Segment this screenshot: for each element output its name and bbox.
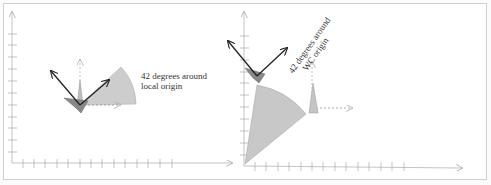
right-rotated-x-arrow [257,48,287,76]
rotation-diagram: 42 degrees around local origin [0,0,491,185]
left-x-ticks [23,159,172,168]
left-panel: 42 degrees around local origin [8,12,232,168]
right-rotated-y-arrow [228,41,257,76]
right-panel: 42 degrees around WC origin [228,12,462,171]
right-caption: 42 degrees around WC origin [286,15,341,81]
right-rotation-wedge [245,85,306,164]
left-rotation-wedge [80,67,136,105]
left-caption-line2: local origin [141,81,183,91]
left-y-ticks [8,34,17,152]
left-rotated-y-arrow [51,71,80,105]
right-rotated-triangle [245,68,265,83]
right-original-triangle [309,83,318,113]
left-caption-line1: 42 degrees around [141,71,207,81]
right-y-ticks [240,36,249,155]
